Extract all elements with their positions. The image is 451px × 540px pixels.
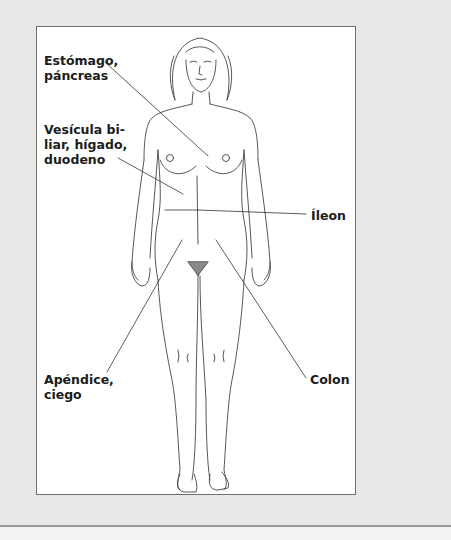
label-colon: Colon <box>310 372 350 387</box>
label-ileon: Íleon <box>311 208 346 223</box>
label-estomago-pancreas: Estómago, páncreas <box>44 53 118 83</box>
label-apendice-ciego: Apéndice, ciego <box>44 372 114 402</box>
label-vesicula-higado-duodeno: Vesícula bi- liar, hígado, duodeno <box>44 122 127 167</box>
